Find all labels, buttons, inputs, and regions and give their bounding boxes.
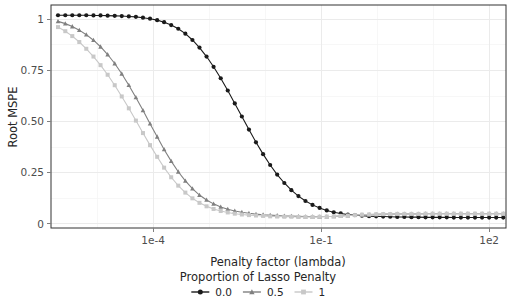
x-tick-label: 1e-4	[141, 234, 165, 246]
marker-circle	[452, 215, 456, 219]
marker-square	[459, 212, 463, 216]
marker-square	[240, 213, 244, 217]
marker-square	[148, 143, 152, 147]
marker-square	[473, 212, 477, 216]
marker-square	[360, 213, 364, 217]
marker-square	[63, 29, 67, 33]
marker-circle	[423, 215, 427, 219]
marker-square	[233, 212, 237, 216]
marker-circle	[162, 20, 166, 24]
marker-circle	[91, 13, 95, 17]
marker-circle	[268, 163, 272, 167]
marker-square	[247, 213, 251, 217]
marker-circle	[303, 199, 307, 203]
legend-item-0.0[interactable]: 0.0	[191, 286, 232, 298]
marker-square	[205, 204, 209, 208]
marker-circle	[247, 127, 251, 131]
marker-square	[197, 201, 201, 205]
marker-square	[91, 55, 95, 59]
marker-circle	[296, 194, 300, 198]
marker-circle	[487, 215, 491, 219]
marker-square	[169, 175, 173, 179]
marker-circle	[70, 13, 74, 17]
marker-square	[162, 166, 166, 170]
marker-square	[501, 212, 505, 216]
marker-circle	[501, 215, 505, 219]
marker-square	[134, 119, 138, 123]
marker-circle	[310, 203, 314, 207]
marker-square	[113, 83, 117, 87]
x-axis-title: Penalty factor (lambda)	[210, 255, 346, 269]
marker-square	[183, 191, 187, 195]
marker-circle	[56, 13, 60, 17]
marker-square	[190, 196, 194, 200]
chart-canvas: 1e-41e-11e2 00.250.500.751 Penalty facto…	[0, 0, 515, 302]
marker-square	[84, 47, 88, 51]
marker-square	[339, 214, 343, 218]
marker-circle	[226, 88, 230, 92]
marker-square	[452, 212, 456, 216]
marker-square	[155, 155, 159, 159]
legend-title: Proportion of Lasso Penalty	[180, 270, 337, 284]
marker-square	[424, 212, 428, 216]
marker-square	[106, 73, 110, 77]
marker-square	[431, 212, 435, 216]
marker-circle	[473, 215, 477, 219]
marker-circle	[141, 16, 145, 20]
marker-square	[466, 212, 470, 216]
marker-circle	[445, 215, 449, 219]
marker-circle	[148, 17, 152, 21]
marker-square	[254, 214, 258, 218]
marker-circle	[466, 215, 470, 219]
marker-circle	[127, 14, 131, 18]
marker-circle	[480, 215, 484, 219]
y-axis-ticks: 00.250.500.751	[21, 13, 51, 230]
marker-square	[70, 34, 74, 38]
x-tick-label: 1e-1	[309, 234, 333, 246]
marker-circle	[204, 54, 208, 58]
y-tick-label: 0.25	[21, 166, 44, 178]
legend-item-1[interactable]: 1	[295, 286, 326, 298]
marker-square	[289, 215, 293, 219]
marker-circle	[98, 13, 102, 17]
marker-square	[417, 212, 421, 216]
legend-item-label: 0.5	[267, 286, 284, 298]
y-tick-label: 1	[37, 13, 44, 25]
marker-square	[480, 212, 484, 216]
y-tick-label: 0.75	[21, 64, 44, 76]
marker-circle	[289, 188, 293, 192]
marker-circle	[120, 14, 124, 18]
marker-square	[367, 213, 371, 217]
marker-circle	[77, 13, 81, 17]
marker-circle	[84, 13, 88, 17]
marker-circle	[63, 13, 67, 17]
marker-circle	[282, 181, 286, 185]
legend: 0.00.51	[191, 286, 325, 298]
marker-circle	[211, 65, 215, 69]
y-axis-title: Root MSPE	[6, 86, 20, 147]
marker-square	[388, 212, 392, 216]
marker-square	[268, 214, 272, 218]
marker-square	[395, 212, 399, 216]
marker-square	[487, 212, 491, 216]
marker-circle	[106, 14, 110, 18]
marker-square	[226, 210, 230, 214]
marker-circle	[431, 215, 435, 219]
marker-square	[261, 214, 265, 218]
legend-item-label: 1	[319, 286, 326, 298]
marker-circle	[169, 23, 173, 27]
marker-circle	[261, 152, 265, 156]
marker-square	[275, 215, 279, 219]
marker-circle	[155, 18, 159, 22]
legend-item-label: 0.0	[215, 286, 232, 298]
marker-circle	[233, 101, 237, 105]
marker-circle	[176, 27, 180, 31]
marker-square	[212, 207, 216, 211]
marker-square	[120, 94, 124, 98]
marker-square	[494, 212, 498, 216]
marker-square	[77, 40, 81, 44]
legend-item-0.5[interactable]: 0.5	[243, 286, 284, 298]
legend-marker-circle	[198, 290, 203, 295]
marker-circle	[325, 208, 329, 212]
marker-square	[141, 131, 145, 135]
